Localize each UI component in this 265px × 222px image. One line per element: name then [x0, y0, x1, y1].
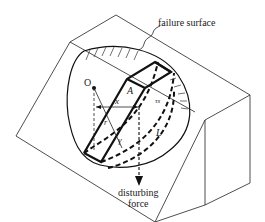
slice-prism — [84, 62, 171, 162]
failure-surface-leader — [138, 26, 160, 50]
slope-failure-diagram: failure surface O A x r τs γ L disturbin… — [0, 0, 265, 222]
force-label-line1: disturbing — [118, 187, 159, 198]
failure-surface-label: failure surface — [158, 17, 216, 28]
center-label: O — [84, 77, 91, 88]
arc-length-label: L — [155, 127, 162, 138]
radius-label: r — [104, 118, 108, 127]
area-label: A — [126, 85, 134, 96]
moment-arm-label: x — [114, 96, 119, 106]
unit-weight-label: γ — [118, 135, 122, 145]
disturbing-force-arrow — [135, 107, 143, 186]
shear-stress-label: τs — [155, 97, 161, 105]
force-label-line2: force — [128, 198, 149, 209]
